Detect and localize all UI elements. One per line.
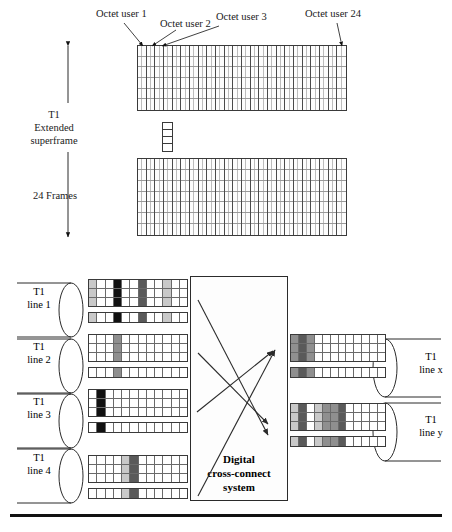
grid-cell: [294, 99, 302, 110]
grid-subcell: [238, 170, 241, 180]
t1-line-3-frame-cell: [130, 408, 138, 416]
grid-subcell: [255, 89, 258, 99]
grid-subcell: [212, 213, 215, 223]
grid-cell: [303, 170, 311, 181]
t1-line-2-frame-cell: [172, 353, 180, 361]
t1-line-3-frame-cell: [97, 390, 105, 398]
grid-subcell: [160, 202, 163, 212]
t1-line-2-frame-cell: [97, 353, 105, 361]
grid-subcell: [324, 67, 327, 77]
grid-column: [337, 46, 346, 110]
grid-subcell: [255, 192, 258, 202]
grid-subcell: [229, 67, 232, 77]
grid-cell: [311, 192, 319, 203]
grid-cell: [181, 159, 189, 170]
grid-cell: [259, 99, 267, 110]
grid-subcell: [220, 181, 223, 191]
grid-cell: [337, 202, 346, 213]
grid-cell: [138, 67, 146, 78]
t1-line-1-frame-cell: [114, 298, 122, 306]
grid-cell: [164, 181, 172, 192]
grid-subcell: [229, 99, 232, 110]
grid-cell: [251, 46, 259, 57]
grid-subcell: [342, 89, 346, 99]
grid-cell: [147, 99, 155, 110]
grid-column: [138, 46, 147, 110]
t1-line-x-frame-cell: [315, 335, 323, 343]
grid-cell: [251, 57, 259, 68]
grid-cell: [190, 89, 198, 100]
grid-cell: [147, 89, 155, 100]
grid-subcell: [316, 170, 319, 180]
grid-cell: [190, 67, 198, 78]
t1-line-x-frame-cell: [378, 344, 385, 352]
t1-line-4-frame-cell: [106, 474, 114, 482]
grid-subcell: [194, 181, 197, 191]
grid-cell: [216, 202, 224, 213]
grid-cell: [207, 99, 215, 110]
t1-line-y-frame-cell: [299, 422, 307, 430]
t1-line-1-strip-cell: [139, 313, 147, 322]
t1-line-4-frame-cell: [172, 465, 180, 473]
t1-line-3-frame-row: [89, 399, 187, 408]
grid-cell: [181, 89, 189, 100]
grid-subcell: [168, 99, 171, 110]
grid-cell: [155, 46, 163, 57]
t1-line-y-strip-cell: [331, 437, 339, 446]
grid-cell: [311, 159, 319, 170]
t1-line-1-frame-cell: [106, 289, 114, 297]
t1-line-1-strip-cell: [97, 313, 105, 322]
grid-subcell: [142, 57, 145, 67]
grid-subcell: [324, 46, 327, 56]
grid-subcell: [298, 89, 301, 99]
t1-line-4-strip-cell: [122, 489, 130, 498]
t1-line-4-frame-cell: [114, 456, 122, 464]
grid-column: [147, 46, 156, 110]
t1-line-4-frame-row: [89, 456, 187, 465]
grid-cell: [181, 57, 189, 68]
t1-line-2-frame-cell: [130, 335, 138, 343]
grid-subcell: [229, 224, 232, 235]
grid-cell: [207, 159, 215, 170]
t1-line-y-frame-cell: [339, 413, 347, 421]
grid-subcell: [168, 46, 171, 56]
grid-subcell: [177, 170, 180, 180]
grid-cell: [329, 57, 337, 68]
t1-line-2-frame-cell: [155, 353, 163, 361]
grid-cell: [199, 192, 207, 203]
grid-subcell: [342, 213, 346, 223]
grid-subcell: [229, 159, 232, 169]
grid-subcell: [333, 78, 336, 88]
grid-subcell: [324, 159, 327, 169]
grid-subcell: [151, 192, 154, 202]
t1-line-y-frame-cell: [315, 422, 323, 430]
grid-cell: [251, 213, 259, 224]
grid-column: [285, 159, 294, 235]
grid-cell: [337, 192, 346, 203]
grid-cell: [164, 202, 172, 213]
grid-subcell: [307, 170, 310, 180]
grid-cell: [147, 202, 155, 213]
grid-cell: [251, 78, 259, 89]
t1-line-1-strip-cell: [147, 313, 155, 322]
grid-subcell: [272, 159, 275, 169]
grid-cell: [251, 192, 259, 203]
t1-line-3-frame-cell: [122, 408, 130, 416]
t1-line-3-frame-cell: [172, 408, 180, 416]
grid-column: [311, 46, 320, 110]
grid-subcell: [324, 57, 327, 67]
grid-cell: [181, 181, 189, 192]
grid-cell: [216, 67, 224, 78]
grid-cell: [277, 159, 285, 170]
grid-cell: [268, 224, 276, 235]
grid-column: [320, 46, 329, 110]
grid-cell: [138, 57, 146, 68]
grid-cell: [173, 78, 181, 89]
t1-line-3-frame-cell: [180, 408, 187, 416]
grid-cell: [225, 89, 233, 100]
grid-cell: [199, 159, 207, 170]
t1-line-3-frame-cell: [89, 390, 97, 398]
t1-line-2-label-line-2: line 2: [8, 354, 70, 367]
grid-cell: [285, 99, 293, 110]
grid-subcell: [264, 159, 267, 169]
